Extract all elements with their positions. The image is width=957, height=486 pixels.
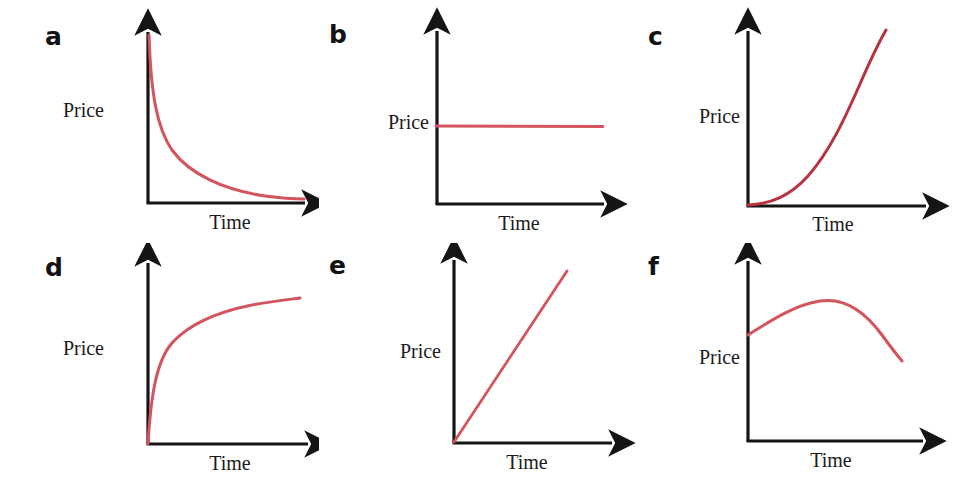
- x-axis-label-f: Time: [786, 450, 876, 470]
- panel-letter-a: a: [45, 24, 62, 49]
- panel-c: c Price Time: [638, 0, 957, 243]
- x-axis-label-d: Time: [185, 453, 275, 473]
- panel-f: f Price Time: [638, 243, 957, 486]
- panel-letter-b: b: [329, 22, 347, 47]
- y-axis-label-f: Price: [630, 347, 740, 367]
- y-axis-label-a: Price: [28, 100, 104, 120]
- panel-letter-f: f: [648, 254, 659, 279]
- y-axis-label-b: Price: [319, 112, 429, 132]
- panel-letter-e: e: [329, 253, 346, 278]
- panel-letter-c: c: [648, 24, 663, 49]
- panel-e: e Price Time: [319, 243, 638, 486]
- curve-linear-growth: [454, 271, 567, 442]
- x-axis-label-b: Time: [474, 213, 564, 233]
- curve-rise-then-fall: [748, 300, 902, 361]
- x-axis-label-c: Time: [788, 214, 878, 234]
- x-axis-label-e: Time: [482, 452, 572, 472]
- y-axis-label-d: Price: [28, 338, 104, 358]
- curve-exponential-growth: [748, 30, 886, 205]
- x-axis-label-a: Time: [185, 212, 275, 232]
- curve-exponential-decay: [149, 35, 304, 199]
- curve-saturating-growth: [148, 298, 300, 444]
- curve-constant-flat: [436, 126, 603, 127]
- panel-a: a Price Time: [0, 0, 319, 243]
- six-panel-price-time-figure: a Price Time b Price Time: [0, 0, 957, 486]
- y-axis-label-c: Price: [630, 106, 740, 126]
- panel-letter-d: d: [45, 255, 63, 280]
- panel-e-plot: [319, 243, 638, 486]
- y-axis-label-e: Price: [333, 341, 441, 361]
- panel-b: b Price Time: [319, 0, 638, 243]
- panel-d: d Price Time: [0, 243, 319, 486]
